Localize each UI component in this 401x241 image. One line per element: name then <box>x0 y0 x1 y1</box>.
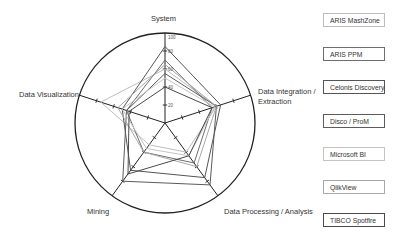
axis-label-mining: Mining <box>87 207 109 217</box>
radar-series <box>101 47 221 185</box>
tick-label: 20 <box>168 103 174 108</box>
axis-label-processing: Data Processing / Analysis <box>224 207 313 217</box>
legend-item-aris-mashzone: ARIS MashZone <box>323 13 385 27</box>
axis-label-integration-line1: Data Integration / <box>258 87 316 97</box>
axis-label-system: System <box>151 14 176 24</box>
legend-item-aris-ppm: ARIS PPM <box>323 47 385 61</box>
legend-item-qlikview: QlikView <box>323 180 385 194</box>
legend-item-tibco-spotfire: TIBCO Spotfire <box>323 213 385 227</box>
tick-labels: 20406080100 <box>168 35 176 108</box>
axis-label-integration: Data Integration / Extraction <box>258 87 316 107</box>
axis-line <box>112 123 165 196</box>
tick-label: 80 <box>168 49 174 54</box>
radar-axes <box>79 33 250 196</box>
legend-item-disco-prom: Disco / ProM <box>323 114 385 128</box>
tick-label: 100 <box>168 35 176 40</box>
legend-item-microsoft-bi: Microsoft BI <box>323 147 385 161</box>
tick-label: 40 <box>168 85 174 90</box>
axis-label-visualization: Data Visualization <box>19 90 79 100</box>
axis-label-integration-line2: Extraction <box>258 97 316 107</box>
tick-label: 60 <box>168 67 174 72</box>
legend-item-celonis-discovery: Celonis Discovery <box>323 80 385 94</box>
